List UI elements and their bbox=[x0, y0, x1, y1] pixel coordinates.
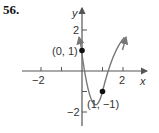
parabola-chart: y x −2 2 2 −2 (0, 1) (1, −1) bbox=[0, 0, 159, 133]
point-label-1-neg1: (1, −1) bbox=[87, 98, 119, 110]
point-vertex-1-neg1 bbox=[100, 89, 106, 95]
tick-label-x-2: 2 bbox=[119, 74, 125, 86]
x-axis-label: x bbox=[139, 75, 146, 87]
y-axis-label: y bbox=[71, 7, 79, 19]
tick-label-y-neg2: −2 bbox=[67, 106, 80, 118]
point-label-0-1: (0, 1) bbox=[52, 45, 78, 57]
point-0-1 bbox=[79, 48, 85, 54]
tick-label-x-neg2: −2 bbox=[32, 74, 45, 86]
tick-label-y-2: 2 bbox=[73, 24, 79, 36]
